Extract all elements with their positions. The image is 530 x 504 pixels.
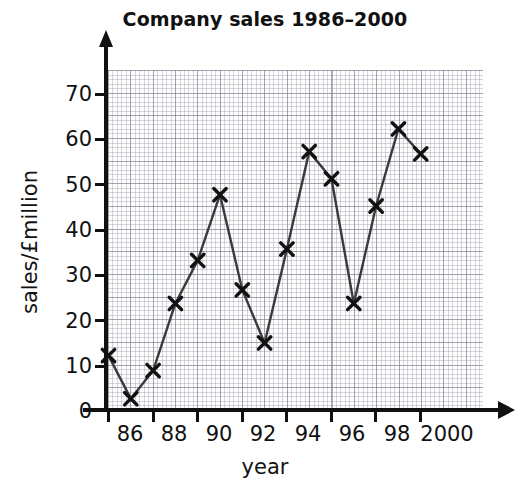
x-tick-mark	[241, 410, 244, 422]
x-tick-label: 94	[295, 422, 322, 446]
x-tick-label: 2000	[420, 422, 473, 446]
y-tick-mark	[95, 274, 108, 277]
y-axis-line	[104, 44, 108, 412]
x-tick-label: 86	[117, 422, 144, 446]
y-tick-mark	[95, 365, 108, 368]
x-axis-title: year	[0, 455, 530, 479]
x-tick-mark	[107, 410, 110, 422]
x-axis-line	[83, 408, 501, 412]
x-tick-mark	[152, 410, 155, 422]
y-axis-title: sales/£million	[18, 127, 42, 357]
x-tick-mark	[196, 410, 199, 422]
x-tick-label: 92	[250, 422, 277, 446]
chart-root: Company sales 1986–2000 70 60 50 40 30 2…	[0, 0, 530, 504]
y-axis-arrow-icon	[99, 30, 113, 47]
y-tick-label: 0	[32, 399, 92, 423]
plot-grid-area	[108, 70, 483, 410]
y-tick-mark	[95, 138, 108, 141]
y-tick-mark	[95, 229, 108, 232]
x-axis-arrow-icon	[498, 401, 515, 419]
x-tick-mark	[374, 410, 377, 422]
y-tick-mark	[95, 319, 108, 322]
x-tick-mark	[419, 410, 422, 422]
x-tick-mark	[330, 410, 333, 422]
y-tick-label: 70	[32, 82, 92, 106]
y-tick-mark	[95, 183, 108, 186]
x-tick-label: 96	[339, 422, 366, 446]
x-tick-label: 98	[384, 422, 411, 446]
x-tick-label: 88	[161, 422, 188, 446]
x-tick-label: 90	[206, 422, 233, 446]
x-tick-mark	[285, 410, 288, 422]
y-tick-label: 10	[32, 354, 92, 378]
y-tick-mark	[95, 93, 108, 96]
